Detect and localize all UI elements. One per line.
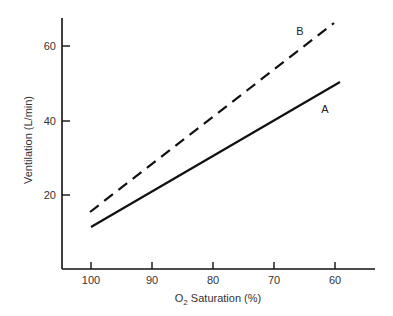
series-b-label: B [296, 25, 303, 37]
x-tick-label: 80 [207, 274, 219, 286]
x-axis-title: O2 Saturation (%) [175, 292, 261, 307]
x-ticks: 100 90 80 70 60 [82, 262, 341, 286]
y-tick-label: 60 [44, 40, 56, 52]
x-tick-label: 70 [268, 274, 280, 286]
series-a-line [91, 82, 340, 227]
y-ticks: 20 40 60 [44, 40, 70, 201]
y-tick-label: 40 [44, 115, 56, 127]
x-tick-label: 100 [82, 274, 100, 286]
x-tick-label: 90 [146, 274, 158, 286]
y-tick-label: 20 [44, 189, 56, 201]
x-tick-label: 60 [329, 274, 341, 286]
series-a-label: A [321, 103, 329, 115]
y-axis-title: Ventilation (L/min) [22, 96, 34, 184]
series-b-line [90, 23, 334, 212]
chart: 20 40 60 100 90 80 70 60 O2 Saturation (… [0, 0, 393, 316]
